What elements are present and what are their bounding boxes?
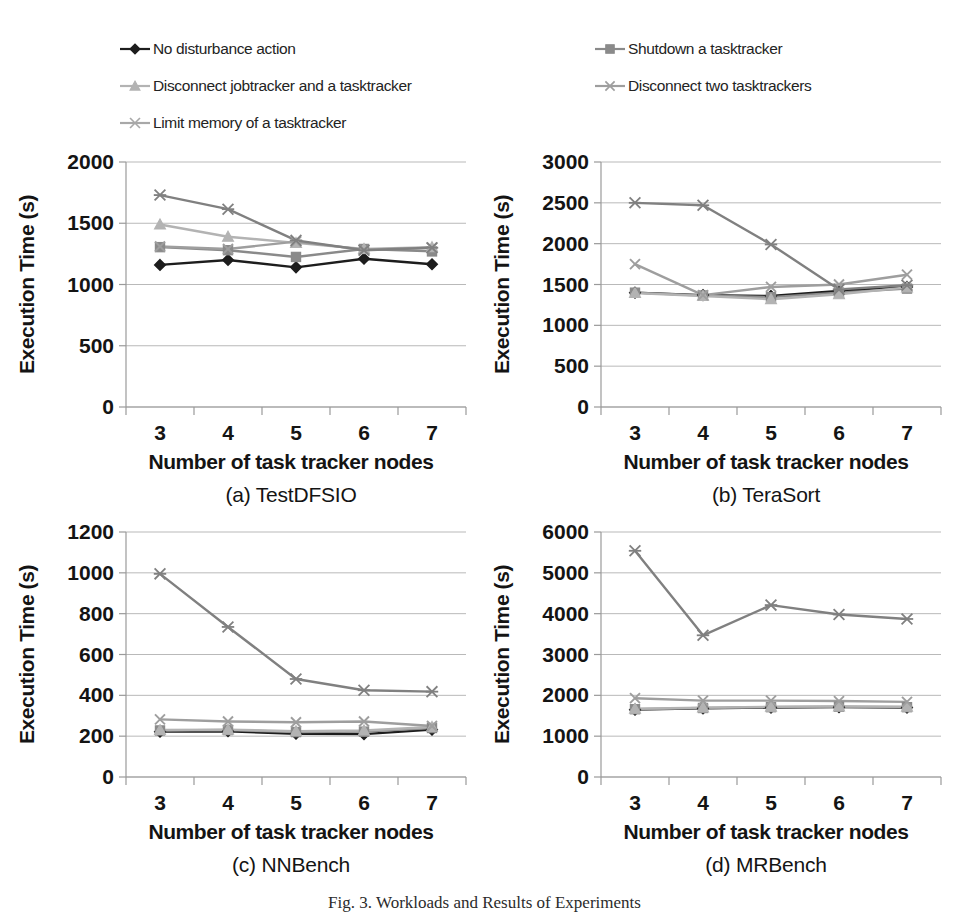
y-tick-label: 5000 — [542, 561, 589, 584]
series-line — [160, 574, 432, 692]
y-axis-label: Execution Time (s) — [15, 565, 38, 744]
y-tick-label: 2500 — [542, 191, 589, 214]
chart-legend: No disturbance actionShutdown a tasktrac… — [118, 40, 858, 145]
y-tick-label: 1200 — [67, 520, 114, 543]
gridlines — [126, 532, 466, 777]
chart-chart-d: 010002000300040005000600034567Execution … — [483, 518, 953, 883]
x-tick-label: 6 — [358, 421, 370, 444]
series-markers — [629, 545, 913, 640]
x-tick-label: 3 — [629, 421, 641, 444]
asterisk-marker — [118, 114, 152, 132]
legend-item-label: Disconnect two tasktrackers — [628, 78, 812, 94]
y-tick-label: 2000 — [542, 232, 589, 255]
legend-item-label: Limit memory of a tasktracker — [153, 115, 346, 131]
x-tick-label: 5 — [290, 421, 302, 444]
x-axis-label: Number of task tracker nodes — [148, 820, 433, 843]
series-line — [635, 551, 907, 636]
y-tick-label: 2000 — [542, 683, 589, 706]
x-axis-label: Number of task tracker nodes — [623, 820, 908, 843]
x-tick-label: 7 — [901, 421, 913, 444]
diamond-marker — [118, 40, 152, 58]
y-tick-label: 1000 — [67, 273, 114, 296]
y-tick-label: 0 — [102, 395, 114, 418]
x-tick-label: 3 — [154, 421, 166, 444]
panel-title: (b) TeraSort — [712, 483, 820, 506]
chart-panel-nnbench: 02004006008001000120034567Execution Time… — [8, 518, 478, 883]
chart-panel-testdfsio: 050010001500200034567Execution Time (s)N… — [8, 148, 478, 513]
y-tick-label: 6000 — [542, 520, 589, 543]
panel-title: (c) NNBench — [232, 853, 350, 876]
legend-item-label: No disturbance action — [153, 41, 296, 57]
x-tick-label: 7 — [901, 791, 913, 814]
axes — [119, 532, 466, 785]
gridlines — [601, 532, 941, 777]
y-tick-label: 500 — [79, 334, 114, 357]
gridlines — [601, 162, 941, 407]
figure-caption: Fig. 3. Workloads and Results of Experim… — [0, 893, 969, 913]
y-axis-label: Execution Time (s) — [490, 195, 513, 374]
y-tick-labels: 0100020003000400050006000 — [542, 520, 589, 788]
y-tick-label: 3000 — [542, 150, 589, 173]
y-tick-label: 3000 — [542, 643, 589, 666]
y-tick-label: 1000 — [542, 724, 589, 747]
chart-panel-mrbench: 010002000300040005000600034567Execution … — [483, 518, 953, 883]
series-line — [635, 203, 907, 290]
x-tick-label: 5 — [290, 791, 302, 814]
y-tick-labels: 050010001500200025003000 — [542, 150, 589, 418]
x-tick-label: 7 — [426, 421, 438, 444]
x-axis-label: Number of task tracker nodes — [623, 450, 908, 473]
y-tick-label: 0 — [102, 765, 114, 788]
x-tick-label: 4 — [222, 421, 234, 444]
y-tick-label: 500 — [554, 354, 589, 377]
x-tick-label: 7 — [426, 791, 438, 814]
x-tick-label: 3 — [154, 791, 166, 814]
legend-item: No disturbance action — [118, 40, 296, 58]
legend-item: Shutdown a tasktracker — [593, 40, 782, 58]
series-markers — [154, 568, 438, 697]
y-tick-labels: 020040060080010001200 — [67, 520, 114, 788]
x-tick-label: 4 — [222, 791, 234, 814]
x-tick-label: 4 — [697, 421, 709, 444]
x-tick-label: 5 — [765, 421, 777, 444]
legend-item-label: Disconnect jobtracker and a tasktracker — [153, 78, 412, 94]
x-tick-label: 6 — [358, 791, 370, 814]
legend-item: Limit memory of a tasktracker — [118, 114, 346, 132]
x-tick-labels: 34567 — [629, 421, 913, 444]
x-tick-label: 5 — [765, 791, 777, 814]
legend-item: Disconnect jobtracker and a tasktracker — [118, 77, 412, 95]
panel-title: (a) TestDFSIO — [225, 483, 356, 506]
y-tick-labels: 0500100015002000 — [67, 150, 114, 418]
axes — [119, 162, 466, 415]
square-marker — [593, 40, 627, 58]
legend-item: Disconnect two tasktrackers — [593, 77, 812, 95]
y-tick-label: 200 — [79, 724, 114, 747]
y-axis-label: Execution Time (s) — [490, 565, 513, 744]
chart-panel-terasort: 05001000150020002500300034567Execution T… — [483, 148, 953, 513]
x-tick-label: 6 — [833, 791, 845, 814]
x-tick-labels: 34567 — [154, 791, 438, 814]
x-tick-label: 6 — [833, 421, 845, 444]
triangle-marker — [118, 77, 152, 95]
y-tick-label: 0 — [577, 765, 589, 788]
axes — [594, 532, 941, 785]
x-tick-labels: 34567 — [154, 421, 438, 444]
y-tick-label: 600 — [79, 643, 114, 666]
x-tick-label: 4 — [697, 791, 709, 814]
chart-chart-c: 02004006008001000120034567Execution Time… — [8, 518, 478, 883]
y-tick-label: 1000 — [67, 561, 114, 584]
y-tick-label: 1500 — [542, 273, 589, 296]
series-markers — [630, 282, 913, 304]
x-tick-label: 3 — [629, 791, 641, 814]
cross-marker — [593, 77, 627, 95]
y-tick-label: 1500 — [67, 211, 114, 234]
chart-chart-a: 050010001500200034567Execution Time (s)N… — [8, 148, 478, 513]
y-tick-label: 400 — [79, 683, 114, 706]
y-axis-label: Execution Time (s) — [15, 195, 38, 374]
y-tick-label: 1000 — [542, 313, 589, 336]
y-tick-label: 2000 — [67, 150, 114, 173]
y-tick-label: 800 — [79, 602, 114, 625]
legend-item-label: Shutdown a tasktracker — [628, 41, 782, 57]
y-tick-label: 0 — [577, 395, 589, 418]
x-tick-labels: 34567 — [629, 791, 913, 814]
chart-chart-b: 05001000150020002500300034567Execution T… — [483, 148, 953, 513]
